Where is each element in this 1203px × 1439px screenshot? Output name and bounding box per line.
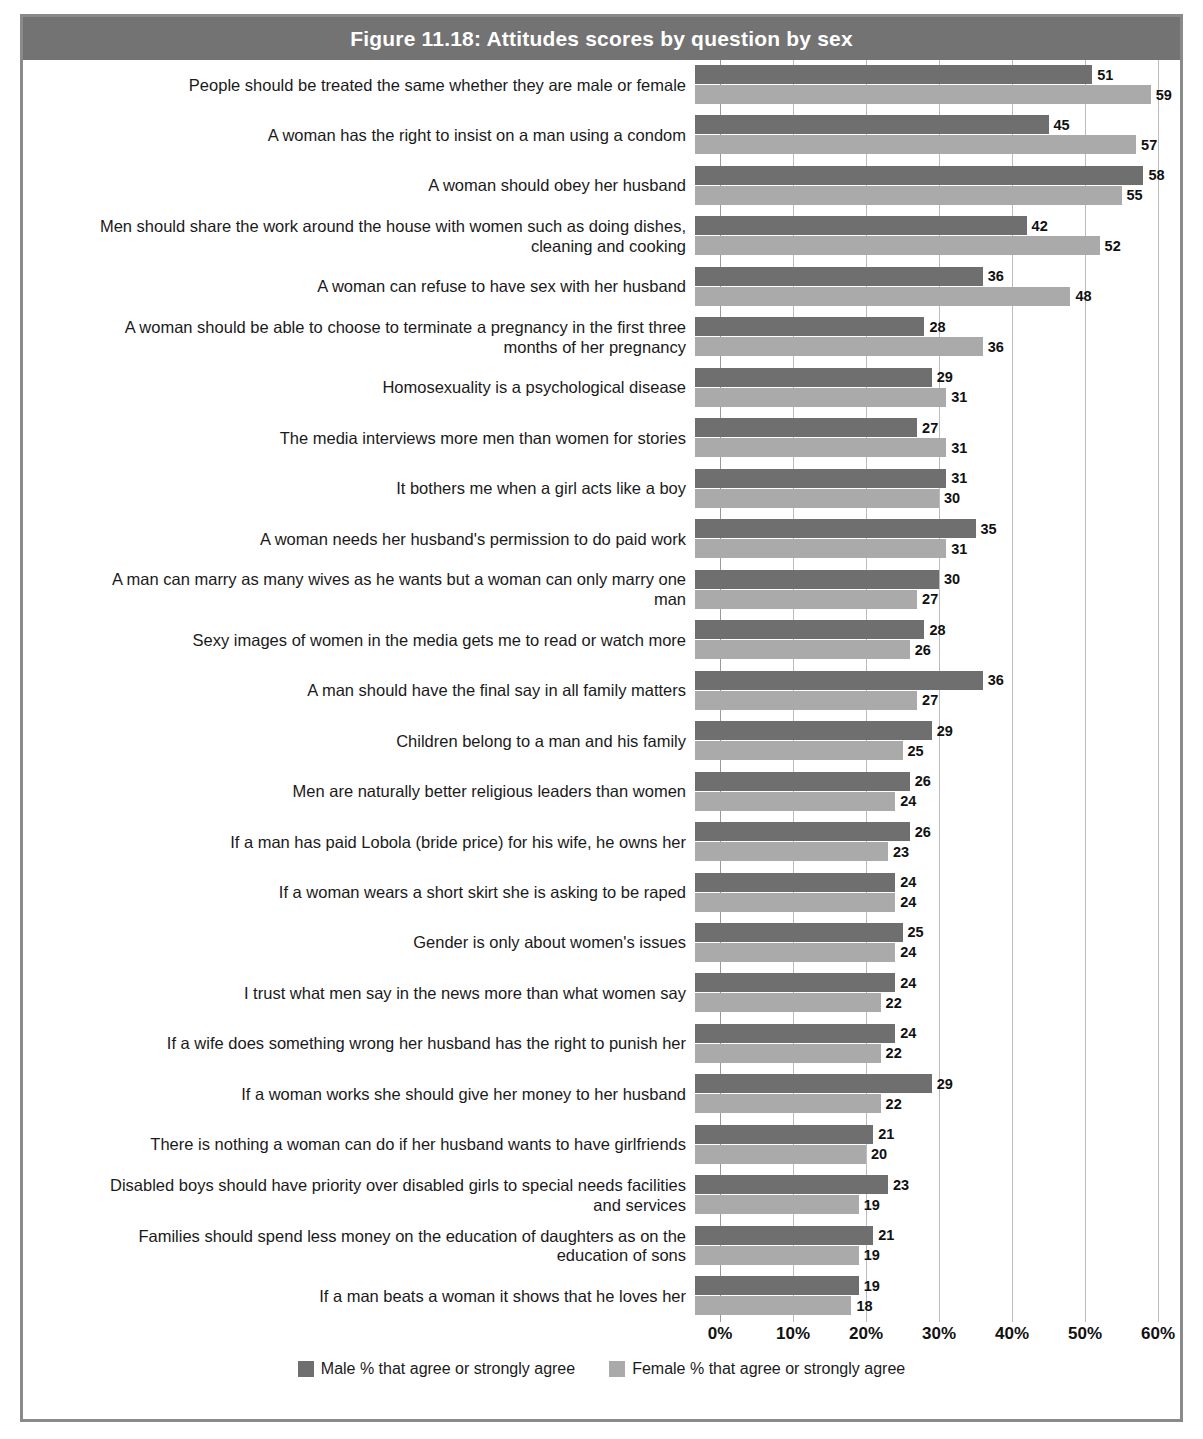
- bar-value-male: 21: [878, 1126, 894, 1142]
- bar-female[interactable]: [695, 438, 946, 457]
- barline-male: 19: [695, 1276, 1180, 1295]
- bar-female[interactable]: [695, 993, 881, 1012]
- barline-male: 29: [695, 368, 1180, 387]
- bar-male[interactable]: [695, 822, 910, 841]
- chart-row: Families should spend less money on the …: [23, 1221, 1180, 1271]
- bar-female[interactable]: [695, 135, 1136, 154]
- category-label-line: cleaning and cooking: [531, 237, 686, 256]
- category-label-line: A woman has the right to insist on a man…: [268, 126, 686, 145]
- bar-female[interactable]: [695, 337, 983, 356]
- bar-female[interactable]: [695, 1094, 881, 1113]
- bar-value-female: 19: [864, 1197, 880, 1213]
- legend-item[interactable]: Female % that agree or strongly agree: [609, 1360, 905, 1378]
- x-tick-label: 40%: [995, 1324, 1029, 1344]
- bar-value-female: 22: [886, 1096, 902, 1112]
- bar-male[interactable]: [695, 620, 924, 639]
- bar-value-female: 24: [900, 793, 916, 809]
- chart-row: If a man has paid Lobola (bride price) f…: [23, 817, 1180, 867]
- bar-male[interactable]: [695, 115, 1049, 134]
- x-tick-label: 50%: [1068, 1324, 1102, 1344]
- x-tick-label: 0%: [708, 1324, 733, 1344]
- chart-row: Children belong to a man and his family2…: [23, 716, 1180, 766]
- bar-value-male: 58: [1148, 167, 1164, 183]
- bar-female[interactable]: [695, 640, 910, 659]
- category-label-line: man: [654, 590, 686, 609]
- bar-value-female: 57: [1141, 137, 1157, 153]
- bar-male[interactable]: [695, 418, 917, 437]
- bar-male[interactable]: [695, 519, 976, 538]
- bar-value-male: 26: [915, 824, 931, 840]
- category-label: A man can marry as many wives as he want…: [23, 565, 695, 615]
- bar-male[interactable]: [695, 368, 932, 387]
- bar-female[interactable]: [695, 489, 939, 508]
- bar-female[interactable]: [695, 1044, 881, 1063]
- category-label-line: It bothers me when a girl acts like a bo…: [396, 479, 686, 498]
- bar-male[interactable]: [695, 923, 903, 942]
- bar-female[interactable]: [695, 539, 946, 558]
- bar-male[interactable]: [695, 1175, 888, 1194]
- bar-male[interactable]: [695, 469, 946, 488]
- chart-row: A woman should obey her husband5855: [23, 161, 1180, 211]
- bar-male[interactable]: [695, 772, 910, 791]
- bar-value-female: 24: [900, 894, 916, 910]
- barline-female: 22: [695, 1094, 1180, 1113]
- category-label: If a woman works she should give her mon…: [23, 1069, 695, 1119]
- legend-swatch-icon: [609, 1361, 625, 1377]
- bar-male[interactable]: [695, 721, 932, 740]
- barline-female: 18: [695, 1296, 1180, 1315]
- barline-female: 25: [695, 741, 1180, 760]
- bar-male[interactable]: [695, 1024, 895, 1043]
- bar-female[interactable]: [695, 1145, 866, 1164]
- category-label: A woman needs her husband's permission t…: [23, 514, 695, 564]
- bar-female[interactable]: [695, 943, 895, 962]
- row-bars: 1918: [695, 1271, 1180, 1321]
- bar-value-female: 23: [893, 844, 909, 860]
- bar-female[interactable]: [695, 85, 1151, 104]
- bar-male[interactable]: [695, 1074, 932, 1093]
- plot-area: People should be treated the same whethe…: [23, 60, 1180, 1419]
- barline-male: 28: [695, 620, 1180, 639]
- bar-male[interactable]: [695, 873, 895, 892]
- bar-female[interactable]: [695, 1195, 859, 1214]
- x-tick-label: 20%: [849, 1324, 883, 1344]
- chart-row: People should be treated the same whethe…: [23, 60, 1180, 110]
- barline-male: 26: [695, 772, 1180, 791]
- barline-male: 29: [695, 1074, 1180, 1093]
- bar-male[interactable]: [695, 216, 1027, 235]
- category-label: It bothers me when a girl acts like a bo…: [23, 464, 695, 514]
- bar-male[interactable]: [695, 317, 924, 336]
- bar-male[interactable]: [695, 65, 1092, 84]
- bar-male[interactable]: [695, 973, 895, 992]
- bar-male[interactable]: [695, 1276, 859, 1295]
- category-label-line: There is nothing a woman can do if her h…: [150, 1135, 686, 1154]
- bar-male[interactable]: [695, 671, 983, 690]
- bar-female[interactable]: [695, 1296, 851, 1315]
- bar-female[interactable]: [695, 893, 895, 912]
- bar-male[interactable]: [695, 570, 939, 589]
- category-label: The media interviews more men than women…: [23, 413, 695, 463]
- bar-value-male: 24: [900, 1025, 916, 1041]
- bar-male[interactable]: [695, 1125, 873, 1144]
- barline-female: 31: [695, 438, 1180, 457]
- bar-male[interactable]: [695, 1226, 873, 1245]
- bar-male[interactable]: [695, 267, 983, 286]
- bar-female[interactable]: [695, 1246, 859, 1265]
- figure-page: Figure 11.18: Attitudes scores by questi…: [0, 0, 1203, 1439]
- barline-male: 31: [695, 469, 1180, 488]
- bar-female[interactable]: [695, 691, 917, 710]
- bar-female[interactable]: [695, 792, 895, 811]
- category-label: If a man beats a woman it shows that he …: [23, 1271, 695, 1321]
- row-bars: 2922: [695, 1069, 1180, 1119]
- chart-row: A woman needs her husband's permission t…: [23, 514, 1180, 564]
- bar-female[interactable]: [695, 388, 946, 407]
- bar-female[interactable]: [695, 236, 1100, 255]
- bar-female[interactable]: [695, 186, 1122, 205]
- bar-female[interactable]: [695, 590, 917, 609]
- bar-female[interactable]: [695, 741, 903, 760]
- bar-value-male: 36: [988, 268, 1004, 284]
- bar-male[interactable]: [695, 166, 1143, 185]
- legend-item[interactable]: Male % that agree or strongly agree: [298, 1360, 575, 1378]
- bar-female[interactable]: [695, 842, 888, 861]
- bar-female[interactable]: [695, 287, 1070, 306]
- barline-male: 35: [695, 519, 1180, 538]
